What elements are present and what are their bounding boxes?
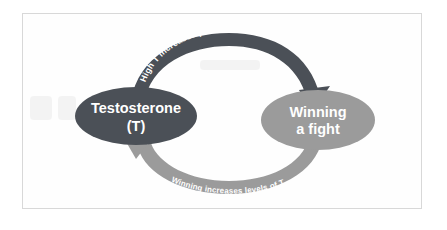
testosterone-ellipse[interactable] [75,87,197,145]
winning-ellipse[interactable] [261,90,375,150]
figure-root: High T increases probability of Winning … [0,0,447,230]
testosterone-label-line1: Testosterone [91,100,181,116]
winning-label-line1: Winning [289,104,346,120]
testosterone-label-line2: (T) [127,118,146,134]
node-winning-a-fight[interactable]: Winning a fight [261,90,375,150]
node-testosterone[interactable]: Testosterone (T) [75,87,197,145]
winning-label-line2: a fight [296,121,340,137]
cycle-diagram: High T increases probability of Winning … [0,0,447,230]
